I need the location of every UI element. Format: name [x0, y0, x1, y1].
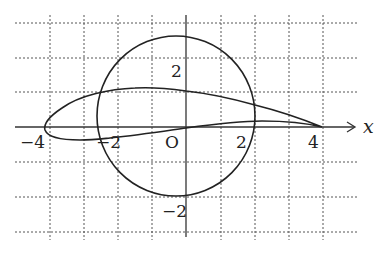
x-axis-label: x	[363, 115, 374, 137]
airfoil-curve	[45, 88, 322, 140]
joukowski-diagram: x O −4 −2 2 4 2 −2	[0, 0, 382, 258]
x-tick-2: 2	[236, 132, 247, 152]
y-tick-neg2: −2	[162, 201, 187, 221]
y-tick-2: 2	[171, 61, 182, 81]
origin-label: O	[165, 132, 179, 152]
x-tick-neg4: −4	[20, 132, 45, 152]
circle-curve	[97, 36, 255, 196]
x-tick-neg2: −2	[96, 132, 121, 152]
x-tick-4: 4	[308, 132, 319, 152]
